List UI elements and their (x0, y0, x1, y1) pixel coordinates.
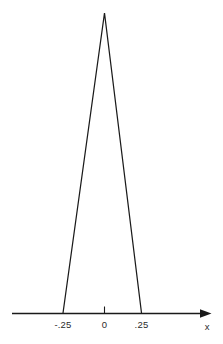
x-tick-label-zero: 0 (102, 319, 107, 330)
x-axis-arrowhead (200, 309, 212, 318)
x-tick-label-positive-quarter: .25 (135, 319, 149, 330)
figure-panel: -.25 0 .25 x (0, 0, 223, 344)
x-tick-label-negative-quarter: -.25 (54, 319, 71, 330)
plot-canvas (0, 0, 223, 344)
x-axis-label: x (205, 321, 210, 332)
triangle-curve (63, 13, 142, 313)
